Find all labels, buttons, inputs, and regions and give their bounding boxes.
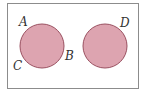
- label-c: C: [13, 59, 22, 73]
- set-circle-left: [20, 24, 64, 68]
- label-d: D: [119, 16, 130, 30]
- set-circle-right: [83, 24, 127, 68]
- venn-diagram: A B C D: [0, 0, 145, 91]
- label-a: A: [18, 15, 28, 29]
- label-b: B: [64, 49, 74, 63]
